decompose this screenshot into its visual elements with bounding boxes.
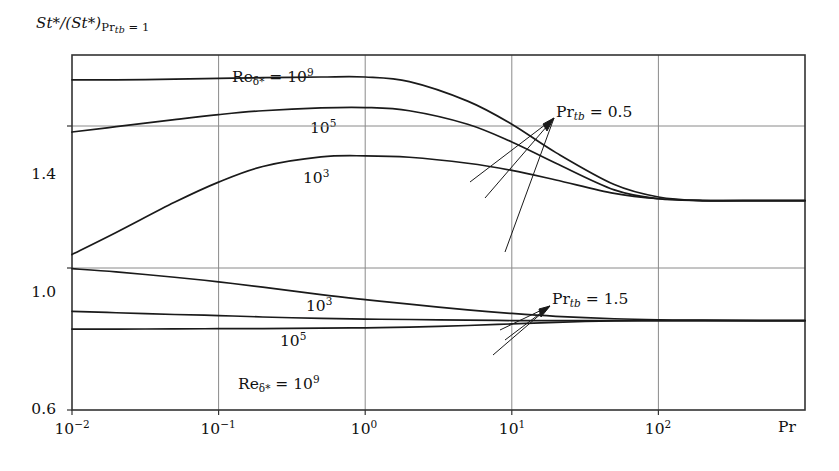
curve-1 <box>72 107 805 200</box>
frame-rect <box>72 55 805 410</box>
plot-area <box>0 0 839 471</box>
plot-frame <box>67 55 805 415</box>
curve-2 <box>72 156 805 255</box>
curve-lines <box>72 77 805 329</box>
curve-5 <box>72 321 805 330</box>
figure-chart: St*/(St*)Prtb = 1 1.4 1.0 0.6 10−2 10−1 … <box>0 0 839 471</box>
gridlines <box>72 55 805 410</box>
curve-4 <box>72 311 805 320</box>
curve-0 <box>72 77 805 201</box>
curve-3 <box>72 269 805 321</box>
